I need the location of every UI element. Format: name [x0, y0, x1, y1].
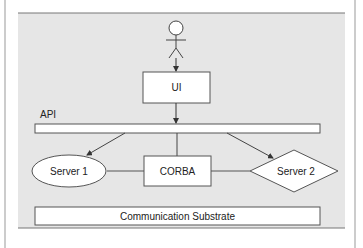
diagram-canvas: UI API Server 1 CORBA Server 2 Communica…: [0, 0, 363, 248]
corba-label: CORBA: [160, 166, 196, 177]
server1-label: Server 1: [50, 166, 88, 177]
ui-label: UI: [172, 82, 182, 93]
server2-label: Server 2: [277, 166, 315, 177]
corba-node: CORBA: [144, 156, 211, 186]
api-label: API: [40, 109, 56, 120]
substrate-label: Communication Substrate: [120, 211, 235, 222]
diagram-panel: [18, 13, 345, 228]
substrate-node: Communication Substrate: [35, 207, 320, 225]
ui-node: UI: [143, 72, 210, 103]
api-bar: [35, 124, 320, 133]
server1-node: Server 1: [32, 155, 106, 187]
